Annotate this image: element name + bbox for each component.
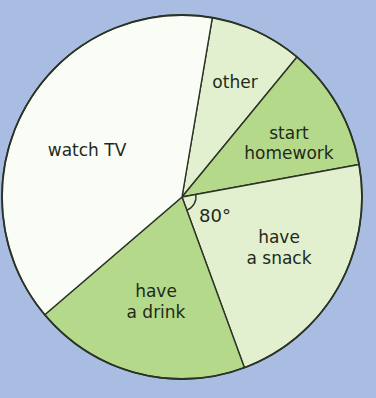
slice-label-start-homework-line2: homework [244, 143, 333, 163]
slice-label-have-a-snack-line1: have [258, 227, 300, 247]
slice-label-watch-tv: watch TV [48, 140, 127, 160]
slice-label-start-homework-line1: start [269, 123, 309, 143]
pie-chart: 80° other start homework watch TV have a… [0, 0, 376, 398]
pie-slices [2, 15, 362, 379]
slice-label-have-a-snack-line2: a snack [246, 248, 311, 268]
slice-label-have-a-drink-line2: a drink [127, 302, 186, 322]
slice-label-other: other [212, 72, 257, 92]
angle-label: 80° [199, 205, 231, 226]
slice-label-have-a-drink-line1: have [135, 281, 177, 301]
